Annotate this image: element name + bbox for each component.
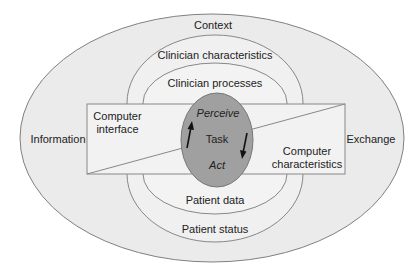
computer-characteristics-label: Computer characteristics — [267, 145, 347, 171]
task-label: Task — [200, 133, 234, 146]
exchange-label: Exchange — [345, 133, 397, 146]
patient-status-label: Patient status — [170, 223, 260, 236]
computer-characteristics-line1: Computer — [267, 145, 347, 158]
clinician-characteristics-label: Clinician characteristics — [155, 49, 275, 62]
patient-data-label: Patient data — [175, 194, 255, 207]
information-label: Information — [30, 133, 86, 146]
computer-interface-label: Computer interface — [90, 110, 145, 136]
act-label: Act — [203, 159, 231, 172]
computer-characteristics-line2: characteristics — [267, 158, 347, 171]
computer-interface-line2: interface — [90, 123, 145, 136]
clinician-processes-label: Clinician processes — [165, 77, 265, 90]
perceive-label: Perceive — [193, 107, 243, 120]
context-label: Context — [192, 19, 234, 32]
computer-interface-line1: Computer — [90, 110, 145, 123]
